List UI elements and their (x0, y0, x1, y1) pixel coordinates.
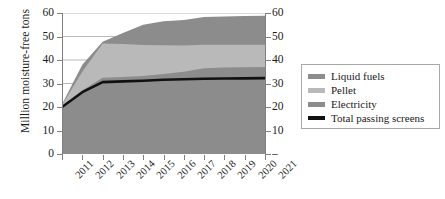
legend-swatch-icon (308, 88, 325, 93)
y-axis-label-right: 30 (272, 78, 294, 89)
x-axis-label: 2016 (175, 158, 198, 181)
legend-item[interactable]: Pellet (302, 83, 439, 97)
x-axis-label: 2018 (215, 158, 238, 181)
legend-swatch-icon (308, 116, 325, 120)
x-axis-label: 2017 (195, 158, 218, 181)
y-axis-label-left: 10 (32, 125, 54, 136)
x-axis-tick (164, 155, 165, 160)
stacked-area-svg (62, 13, 265, 154)
x-axis-label: 2015 (154, 158, 177, 181)
x-axis-label: 2013 (114, 158, 137, 181)
x-axis-tick (265, 155, 266, 160)
y-axis-tick-left (57, 84, 62, 85)
y-axis-label-left: 50 (32, 31, 54, 42)
legend-item-label: Pellet (331, 84, 356, 96)
y-axis-tick-left (57, 107, 62, 108)
legend-item[interactable]: Liquid fuels (302, 69, 439, 83)
x-axis-tick (123, 155, 124, 160)
x-axis-label: 2020 (256, 158, 279, 181)
y-axis-tick-right (266, 13, 271, 14)
x-axis-tick (224, 155, 225, 160)
legend-item-label: Electricity (331, 98, 377, 110)
y-axis-tick-left (57, 60, 62, 61)
legend-item-label: Total passing screens (331, 112, 424, 124)
y-axis-label-left: 20 (32, 101, 54, 112)
y-axis-label-right: 50 (272, 31, 294, 42)
y-axis-label-left: 60 (32, 7, 54, 18)
x-axis-label: 2011 (73, 158, 95, 180)
x-axis-tick (245, 155, 246, 160)
y-axis-title: Million moisture-free tons (19, 1, 33, 141)
legend-item[interactable]: Electricity (302, 97, 439, 111)
legend-item-label: Liquid fuels (331, 70, 384, 82)
x-axis-tick (103, 155, 104, 160)
x-axis-label: 2014 (134, 158, 157, 181)
y-axis-label-right: 40 (272, 54, 294, 65)
y-axis-tick-right (266, 131, 271, 132)
y-axis-label-left: 40 (32, 54, 54, 65)
y-axis-label-left: 30 (32, 78, 54, 89)
x-axis-tick (184, 155, 185, 160)
chart-legend: Liquid fuelsPelletElectricityTotal passi… (301, 64, 440, 129)
x-axis-tick (62, 155, 63, 160)
legend-item[interactable]: Total passing screens (302, 111, 439, 125)
y-axis-tick-right (266, 37, 271, 38)
legend-swatch-icon (308, 74, 325, 79)
x-axis-tick (204, 155, 205, 160)
x-axis-tick (143, 155, 144, 160)
x-axis-label: 2012 (93, 158, 116, 181)
y-axis-tick-right (266, 60, 271, 61)
y-axis-tick-right (266, 154, 271, 155)
plot-inner (62, 13, 265, 154)
y-axis-tick-left (57, 37, 62, 38)
y-axis-left-spine (62, 13, 63, 155)
x-axis-tick (82, 155, 83, 160)
x-axis-label: 2019 (236, 158, 259, 181)
y-axis-label-left: 0 (32, 148, 54, 159)
legend-swatch-icon (308, 102, 325, 107)
plot-area (62, 13, 265, 154)
chart-figure: Million moisture-free tons 0–10102020303… (0, 0, 445, 199)
y-axis-label-right: 60 (272, 7, 294, 18)
y-axis-tick-right (266, 84, 271, 85)
y-axis-tick-left (57, 13, 62, 14)
x-axis-label: 2021 (276, 158, 299, 181)
y-axis-label-right: 20 (272, 101, 294, 112)
y-axis-tick-right (266, 107, 271, 108)
y-axis-tick-left (57, 131, 62, 132)
y-axis-label-right: 10 (272, 125, 294, 136)
